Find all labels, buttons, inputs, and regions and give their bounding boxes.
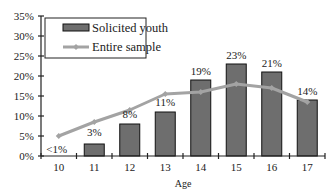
- bar: [120, 124, 140, 156]
- y-tick-label: 0%: [19, 150, 34, 162]
- y-tick-label: 30%: [14, 30, 34, 42]
- legend: Solicited youth Entire sample: [45, 18, 169, 58]
- chart: 0%5%10%15%20%25%30%35% 1011121314151617 …: [0, 0, 335, 196]
- x-tick-label: 16: [266, 161, 278, 173]
- y-tick-label: 20%: [14, 70, 34, 82]
- x-tick-label: 11: [89, 161, 100, 173]
- x-tick-label: 17: [302, 161, 314, 173]
- legend-label-entire: Entire sample: [92, 40, 162, 54]
- bar: [84, 144, 104, 156]
- bar: [297, 100, 317, 156]
- bar-value-label: 3%: [87, 126, 102, 138]
- y-tick-label: 25%: [14, 50, 34, 62]
- y-tick-label: 5%: [19, 130, 34, 142]
- x-tick-label: 12: [124, 161, 135, 173]
- bar: [226, 64, 246, 156]
- x-tick-label: 15: [231, 161, 243, 173]
- bar-value-label: 14%: [297, 85, 317, 97]
- y-tick-label: 10%: [14, 110, 34, 122]
- bar: [155, 112, 175, 156]
- bar-value-label: 21%: [262, 57, 282, 69]
- legend-label-solicited: Solicited youth: [92, 21, 169, 35]
- bar-value-label: 11%: [155, 96, 175, 108]
- bar: [262, 72, 282, 156]
- y-tick-label: 15%: [14, 90, 34, 102]
- x-axis-title: Age: [175, 178, 192, 189]
- x-tick-label: 13: [160, 161, 172, 173]
- x-axis: 1011121314151617: [41, 153, 325, 173]
- x-tick-label: 10: [53, 161, 65, 173]
- bar-value-label: 8%: [122, 108, 137, 120]
- bar-value-label: 19%: [191, 65, 211, 77]
- bar-value-label: 23%: [226, 49, 246, 61]
- legend-bar-swatch-icon: [63, 24, 89, 31]
- y-tick-label: 35%: [14, 10, 34, 22]
- x-tick-label: 14: [195, 161, 207, 173]
- bar-value-label: <1%: [46, 143, 67, 155]
- bars-solicited-youth: [84, 64, 317, 156]
- y-axis: 0%5%10%15%20%25%30%35%: [14, 10, 44, 162]
